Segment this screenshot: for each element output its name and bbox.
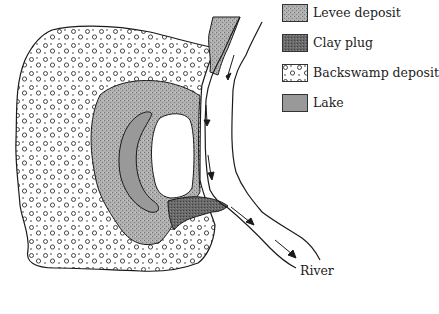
- river-label: River: [300, 263, 334, 278]
- legend-label: Clay plug: [313, 34, 373, 52]
- legend-item-clay-plug: Clay plug: [282, 34, 422, 54]
- lake-swatch: [282, 94, 308, 112]
- legend-item-levee-deposit: Levee deposit: [282, 4, 422, 24]
- river-right-bank: [232, 22, 320, 260]
- clay-plug-swatch: [282, 34, 308, 52]
- legend-label: Backswamp deposit: [313, 64, 439, 82]
- backswamp-deposit-swatch: [282, 64, 308, 82]
- legend-item-lake: Lake: [282, 94, 422, 114]
- legend-label: Lake: [313, 94, 344, 112]
- legend-item-backswamp-deposit: Backswamp deposit: [282, 64, 422, 84]
- oxbow-island: [152, 114, 194, 198]
- levee-deposit-swatch: [282, 4, 308, 22]
- legend-label: Levee deposit: [313, 4, 401, 22]
